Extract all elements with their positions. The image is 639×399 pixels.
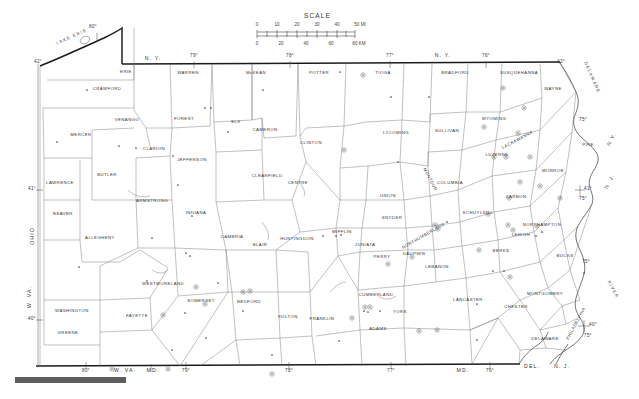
state-label-10: N. J. bbox=[603, 173, 616, 190]
map-point-dot-28 bbox=[379, 310, 381, 312]
map-point-dot-32 bbox=[476, 339, 478, 341]
map-point-dot-1 bbox=[56, 141, 58, 143]
state-label-8: N. J. bbox=[554, 363, 570, 369]
coordinate-label-15: 80° bbox=[82, 368, 90, 373]
map-point-dot-7 bbox=[172, 155, 174, 157]
county-label-westmoreland: WESTMORELAND bbox=[142, 281, 184, 286]
county-label-luzerne: LUZERNE bbox=[485, 152, 508, 157]
coordinate-label-17: 78° bbox=[285, 368, 293, 373]
map-point-dot-9 bbox=[340, 62, 342, 64]
county-label-potter: POTTER bbox=[309, 70, 329, 75]
county-label-erie: ERIE bbox=[120, 69, 132, 74]
county-label-carbon: CARBON bbox=[505, 194, 526, 199]
pennsylvania-map-svg: ERIECRAWFORDWARRENMcKEANPOTTERTIOGABRADF… bbox=[0, 0, 639, 399]
map-point-ringed-21 bbox=[194, 285, 198, 289]
map-point-dot-18 bbox=[322, 235, 324, 237]
map-point-ringed-26 bbox=[363, 305, 367, 309]
map-point-dot-6 bbox=[227, 131, 229, 133]
coordinate-label-12: 40° bbox=[28, 316, 36, 321]
water-label-delaware: DELAWARE bbox=[583, 61, 601, 94]
map-point-dot-21 bbox=[78, 266, 80, 268]
county-label-clarion: CLARION bbox=[143, 146, 165, 151]
map-point-ringed-33 bbox=[270, 372, 274, 376]
state-label-5: MD. bbox=[147, 367, 160, 373]
map-point-dot-26 bbox=[363, 310, 365, 312]
county-label-centre: CENTRE bbox=[288, 180, 308, 185]
water-label-lake-erie: LAKE ERIE bbox=[55, 28, 88, 46]
map-point-dot-34 bbox=[171, 349, 173, 351]
state-label-0: N. Y. bbox=[145, 55, 161, 61]
county-label-mifflin: MIFFLIN bbox=[332, 229, 352, 234]
map-point-dot-41 bbox=[583, 272, 585, 274]
county-label-huntingdon: HUNTINGDON bbox=[280, 236, 314, 241]
map-point-ringed-34 bbox=[508, 275, 512, 279]
map-point-dot-33 bbox=[338, 340, 340, 342]
county-label-northampton: NORTHAMPTON bbox=[523, 222, 561, 227]
county-label-columbia: COLUMBIA bbox=[437, 180, 463, 185]
county-label-greene: GREENE bbox=[58, 330, 79, 335]
map-point-dot-8 bbox=[177, 184, 179, 186]
county-label-blair: BLAIR bbox=[253, 242, 268, 247]
map-point-ringed-16 bbox=[506, 223, 510, 227]
coordinate-label-11: 75° bbox=[582, 259, 590, 264]
map-point-ringed-8 bbox=[528, 155, 532, 159]
county-label-cameron: CAMERON bbox=[252, 127, 277, 132]
coordinate-label-6: 42° bbox=[557, 59, 565, 64]
map-point-dot-10 bbox=[339, 71, 341, 73]
map-point-ringed-9 bbox=[538, 184, 542, 188]
county-label-warren: WARREN bbox=[177, 70, 199, 75]
county-label-dauphin: DAUPHIN bbox=[403, 251, 426, 256]
county-label-juniata: JUNIATA bbox=[355, 242, 375, 247]
coordinate-label-7: 75° bbox=[579, 117, 587, 122]
county-label-tioga: TIOGA bbox=[375, 70, 391, 75]
map-point-dot-5 bbox=[210, 107, 212, 109]
county-label-crawford: CRAWFORD bbox=[93, 86, 122, 91]
county-label-pike: PIKE bbox=[582, 142, 594, 147]
map-point-ringed-18 bbox=[477, 248, 481, 252]
county-label-beaver: BEAVER bbox=[53, 211, 73, 216]
county-label-washington: WASHINGTON bbox=[55, 308, 89, 313]
county-label-snyder: SNYDER bbox=[382, 215, 403, 220]
map-point-ringed-5 bbox=[482, 125, 486, 129]
map-point-ringed-1 bbox=[501, 86, 505, 90]
county-label-susquehanna: SUSQUEHANNA bbox=[500, 70, 538, 75]
county-label-wyoming: WYOMING bbox=[482, 116, 507, 121]
map-point-dot-38 bbox=[205, 337, 207, 339]
map-point-ringed-27 bbox=[368, 305, 372, 309]
map-point-ringed-2 bbox=[522, 106, 526, 110]
county-label-lawrence: LAWRENCE bbox=[46, 180, 74, 185]
map-point-dot-40 bbox=[541, 231, 543, 233]
county-label-adams: ADAMS bbox=[369, 326, 387, 331]
county-label-armstrong: ARMSTRONG bbox=[136, 198, 168, 203]
map-point-dot-3 bbox=[135, 147, 137, 149]
coordinate-label-16: 79° bbox=[182, 368, 190, 373]
county-label-lackawanna: LACKAWANNA bbox=[501, 129, 534, 150]
county-label-clinton: CLINTON bbox=[300, 140, 322, 145]
map-point-dot-0 bbox=[86, 89, 88, 91]
county-label-montgomery: MONTGOMERY bbox=[527, 291, 563, 296]
county-label-union: UNION bbox=[380, 193, 396, 198]
county-label-bucks: BUCKS bbox=[556, 253, 573, 258]
county-label-schuylkill: SCHUYLKILL bbox=[463, 210, 494, 215]
map-point-dot-20 bbox=[340, 234, 342, 236]
map-point-dot-27 bbox=[367, 311, 369, 313]
map-point-dot-39 bbox=[535, 235, 537, 237]
map-point-dot-11 bbox=[390, 96, 392, 98]
coordinate-label-14: 75° bbox=[584, 333, 592, 338]
map-point-dot-2 bbox=[118, 145, 120, 147]
county-label-fulton: FULTON bbox=[278, 314, 298, 319]
state-label-7: DEL. bbox=[524, 363, 540, 369]
state-label-6: MD. bbox=[457, 367, 470, 373]
county-label-chester: CHESTER bbox=[504, 304, 528, 309]
coordinate-label-3: 78° bbox=[286, 53, 294, 58]
map-point-dot-12 bbox=[428, 96, 430, 98]
county-label-venango: VENANGO bbox=[115, 117, 140, 122]
county-label-butler: BUTLER bbox=[97, 172, 117, 177]
county-label-york: YORK bbox=[393, 309, 407, 314]
coordinate-label-13: 40° bbox=[589, 322, 597, 327]
map-point-ringed-0 bbox=[361, 73, 365, 77]
map-point-dot-15 bbox=[191, 215, 193, 217]
state-labels: N. Y.N. Y.OHIOW. VA.W. VA.MD.MD.DEL.N. J… bbox=[26, 52, 617, 373]
state-label-1: N. Y. bbox=[435, 52, 451, 58]
county-label-elk: ELK bbox=[231, 119, 240, 124]
